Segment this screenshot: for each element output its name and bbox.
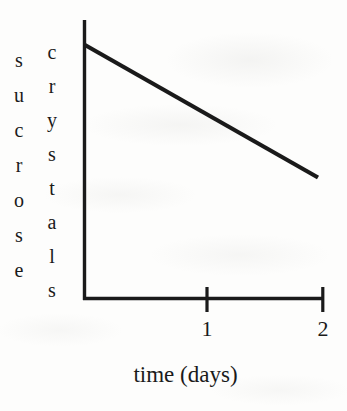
y-axis-label-char: a — [48, 212, 57, 232]
data-line-sucrose-crystals — [85, 45, 318, 178]
figure-canvas: s u c r o s e c r y s t a l s 1 2 time (… — [0, 0, 347, 411]
y-axis-label-char: s — [15, 50, 23, 70]
y-axis-label-char: s — [15, 225, 23, 245]
y-axis-label-char: l — [49, 246, 55, 266]
y-axis-label-char: y — [47, 110, 57, 130]
y-axis-label-char: c — [15, 120, 24, 140]
y-axis-label-word-crystals: c r y s t a l s — [47, 42, 57, 314]
x-axis-title: time (days) — [0, 362, 347, 388]
x-tick-label-1: 1 — [192, 318, 222, 340]
y-axis-label-char: s — [48, 280, 56, 300]
y-axis-label-char: e — [15, 260, 24, 280]
y-axis-label-char: r — [49, 76, 56, 96]
y-axis-label-word-sucrose: s u c r o s e — [14, 50, 24, 295]
y-axis-label-char: s — [48, 144, 56, 164]
y-axis-label-char: o — [14, 190, 24, 210]
y-axis-label-char: c — [48, 42, 57, 62]
y-axis-label-char: r — [16, 155, 23, 175]
y-axis-label-char: u — [14, 85, 24, 105]
y-axis-label-char: t — [49, 178, 55, 198]
x-tick-label-2: 2 — [308, 318, 338, 340]
